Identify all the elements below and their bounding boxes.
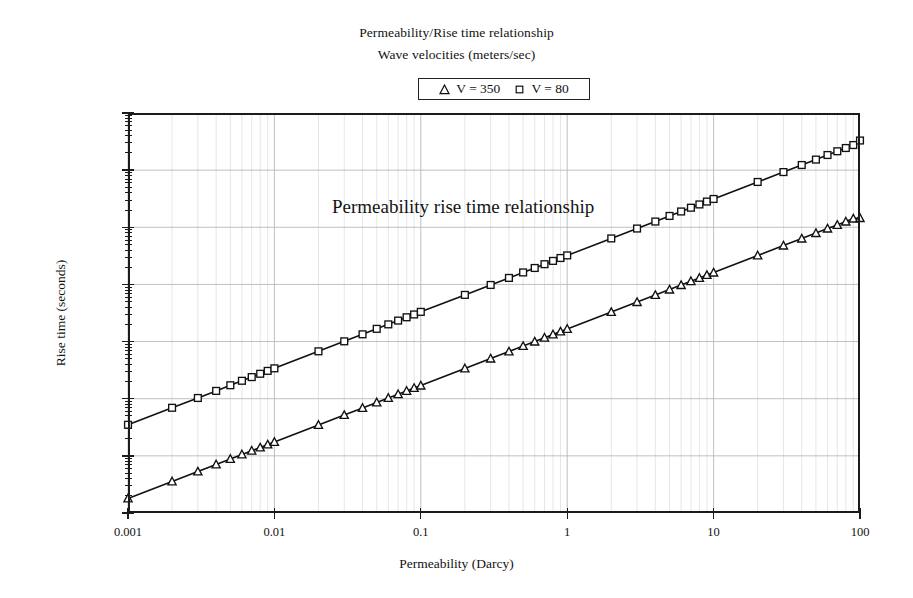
plot-border-left <box>128 113 130 513</box>
data-series-layer <box>128 113 860 513</box>
x-tick-label: 0.1 <box>413 525 429 540</box>
chart-legend[interactable]: V = 350 V = 80 <box>418 78 590 100</box>
x-tick-label: 10 <box>707 525 720 540</box>
square-marker-icon <box>514 84 525 95</box>
y-axis-title: Rise time (seconds) <box>53 260 69 366</box>
legend-label-v80: V = 80 <box>531 81 568 97</box>
legend-entry-v80[interactable]: V = 80 <box>514 81 568 97</box>
x-tick-label: 100 <box>851 525 870 540</box>
chart-title-block: Permeability/Rise time relationship Wave… <box>0 22 913 66</box>
x-tick-label: 0.01 <box>263 525 285 540</box>
plot-border-bottom <box>128 511 860 513</box>
plot-annotation: Permeability rise time relationship <box>332 196 594 218</box>
x-tick-label: 1 <box>564 525 570 540</box>
series-v350 <box>124 214 864 502</box>
plot-border-right <box>858 113 860 513</box>
plot-border-top <box>128 113 860 115</box>
triangle-marker-icon <box>439 84 450 95</box>
plot-area: Permeability rise time relationship Rise… <box>128 113 860 513</box>
chart-title-line-1: Permeability/Rise time relationship <box>0 22 913 44</box>
chart-title-line-2: Wave velocities (meters/sec) <box>0 44 913 66</box>
x-tick-label: 0.001 <box>114 525 142 540</box>
series-v80 <box>125 137 864 428</box>
legend-entry-v350[interactable]: V = 350 <box>439 81 500 97</box>
chart-root: Permeability/Rise time relationship Wave… <box>0 0 913 598</box>
legend-label-v350: V = 350 <box>456 81 500 97</box>
x-axis-title: Permeability (Darcy) <box>0 556 913 572</box>
